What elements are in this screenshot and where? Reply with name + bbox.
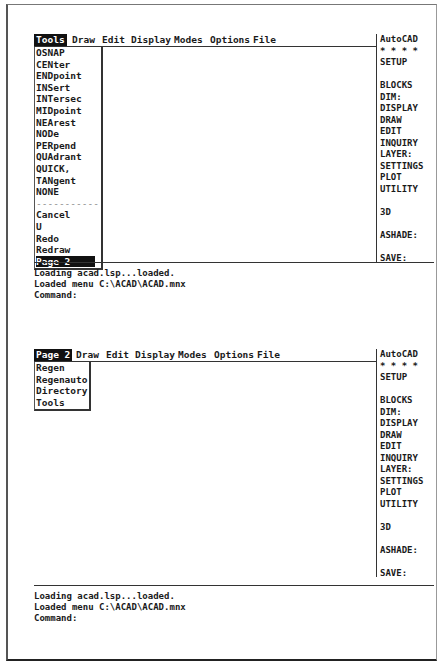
page-2-dropdown: Regen Regenauto Directory Tools — [34, 362, 91, 411]
sidebar-item-blocks[interactable]: BLOCKS — [380, 80, 432, 92]
sidebar-item-blocks[interactable]: BLOCKS — [380, 395, 432, 407]
sidebar-item-display[interactable]: DISPLAY — [380, 418, 432, 430]
command-line: Loaded menu C:\ACAD\ACAD.mnx — [34, 602, 186, 613]
command-area[interactable]: Loading acad.lsp...loaded. Loaded menu C… — [34, 268, 186, 301]
dropdown-item-redraw[interactable]: Redraw — [36, 244, 99, 256]
menu-file[interactable]: File — [253, 34, 276, 46]
dropdown-item-cancel[interactable]: Cancel — [36, 209, 99, 221]
sidebar-item-display[interactable]: DISPLAY — [380, 103, 432, 115]
menu-file[interactable]: File — [257, 349, 280, 361]
dropdown-item-directory[interactable]: Directory — [36, 385, 87, 397]
sidebar-item-inquiry[interactable]: INQUIRY — [380, 138, 432, 150]
sidebar-item-dim[interactable]: DIM: — [380, 407, 432, 419]
command-prompt[interactable]: Command: — [34, 290, 186, 301]
sidebar-spacer — [380, 384, 432, 396]
menu-edit[interactable]: Edit — [106, 349, 129, 361]
sidebar-item-settings[interactable]: SETTINGS — [380, 476, 432, 488]
sidebar-item-edit[interactable]: EDIT — [380, 126, 432, 138]
dropdown-item-center[interactable]: CENter — [36, 59, 99, 71]
command-prompt[interactable]: Command: — [34, 613, 186, 624]
dropdown-item-insert[interactable]: INSert — [36, 82, 99, 94]
dropdown-item-perpend[interactable]: PERpend — [36, 140, 99, 152]
sidebar-item-setup[interactable]: SETUP — [380, 57, 432, 69]
menu-modes[interactable]: Modes — [174, 34, 203, 46]
command-divider — [34, 585, 434, 586]
tools-dropdown: OSNAP CENter ENDpoint INSert INTersec MI… — [34, 47, 103, 270]
menu-tools[interactable]: Tools — [34, 34, 67, 46]
sidebar-item-3d[interactable]: 3D — [380, 522, 432, 534]
menu-edit[interactable]: Edit — [102, 34, 125, 46]
sidebar-item-autocad[interactable]: AutoCAD — [380, 349, 432, 361]
command-line: Loaded menu C:\ACAD\ACAD.mnx — [34, 279, 186, 290]
dropdown-item-intersec[interactable]: INTersec — [36, 93, 99, 105]
sidebar-item-layer[interactable]: LAYER: — [380, 149, 432, 161]
dropdown-item-quick[interactable]: QUICK, — [36, 163, 99, 175]
sidebar-spacer — [380, 533, 432, 545]
sidebar-item-3d[interactable]: 3D — [380, 207, 432, 219]
sidebar-item-inquiry[interactable]: INQUIRY — [380, 453, 432, 465]
sidebar-item-stars[interactable]: * * * * — [380, 46, 432, 58]
sidebar-spacer — [380, 510, 432, 522]
menu-options[interactable]: Options — [214, 349, 254, 361]
dropdown-item-nearest[interactable]: NEArest — [36, 117, 99, 129]
sidebar-item-draw[interactable]: DRAW — [380, 430, 432, 442]
dropdown-item-undo[interactable]: U — [36, 221, 99, 233]
dropdown-item-redo[interactable]: Redo — [36, 233, 99, 245]
dropdown-item-quadrant[interactable]: QUAdrant — [36, 151, 99, 163]
sidebar-spacer — [380, 241, 432, 253]
menu-display[interactable]: Display — [131, 34, 171, 46]
command-line: Loading acad.lsp...loaded. — [34, 268, 186, 279]
sidebar-item-autocad[interactable]: AutoCAD — [380, 34, 432, 46]
sidebar-spacer — [380, 195, 432, 207]
menu-bar: Tools Draw Edit Display Modes Options Fi… — [34, 34, 376, 47]
dropdown-separator: ----------- — [36, 198, 99, 210]
dropdown-item-regen[interactable]: Regen — [36, 362, 87, 374]
sidebar-spacer — [380, 69, 432, 81]
dropdown-item-node[interactable]: NODe — [36, 128, 99, 140]
sidebar-item-utility[interactable]: UTILITY — [380, 499, 432, 511]
sidebar-item-layer[interactable]: LAYER: — [380, 464, 432, 476]
menu-modes[interactable]: Modes — [178, 349, 207, 361]
sidebar-item-plot[interactable]: PLOT — [380, 172, 432, 184]
command-area[interactable]: Loading acad.lsp...loaded. Loaded menu C… — [34, 591, 186, 624]
dropdown-item-endpoint[interactable]: ENDpoint — [36, 70, 99, 82]
dropdown-item-midpoint[interactable]: MIDpoint — [36, 105, 99, 117]
menu-bar: Page 2 Draw Edit Display Modes Options F… — [34, 349, 376, 362]
sidebar-item-stars[interactable]: * * * * — [380, 361, 432, 373]
sidebar-item-utility[interactable]: UTILITY — [380, 184, 432, 196]
sidebar-item-draw[interactable]: DRAW — [380, 115, 432, 127]
menu-options[interactable]: Options — [210, 34, 250, 46]
sidebar-spacer — [380, 218, 432, 230]
sidebar-item-dim[interactable]: DIM: — [380, 92, 432, 104]
sidebar-item-edit[interactable]: EDIT — [380, 441, 432, 453]
sidebar-item-setup[interactable]: SETUP — [380, 372, 432, 384]
sidebar-item-ashade[interactable]: ASHADE: — [380, 230, 432, 242]
dropdown-item-osnap[interactable]: OSNAP — [36, 47, 99, 59]
command-line: Loading acad.lsp...loaded. — [34, 591, 186, 602]
command-divider — [34, 262, 434, 263]
menu-page-2[interactable]: Page 2 — [34, 349, 72, 361]
sidebar-item-plot[interactable]: PLOT — [380, 487, 432, 499]
menu-display[interactable]: Display — [135, 349, 175, 361]
screen-menu-sidebar: AutoCAD * * * * SETUP BLOCKS DIM: DISPLA… — [376, 349, 432, 577]
menu-draw[interactable]: Draw — [76, 349, 99, 361]
sidebar-item-settings[interactable]: SETTINGS — [380, 161, 432, 173]
dropdown-item-regenauto[interactable]: Regenauto — [36, 374, 87, 386]
sidebar-item-save[interactable]: SAVE: — [380, 568, 432, 580]
screen-menu-sidebar: AutoCAD * * * * SETUP BLOCKS DIM: DISPLA… — [376, 34, 432, 262]
sidebar-item-ashade[interactable]: ASHADE: — [380, 545, 432, 557]
menu-draw[interactable]: Draw — [72, 34, 95, 46]
dropdown-item-tools[interactable]: Tools — [36, 397, 87, 409]
dropdown-item-tangent[interactable]: TANgent — [36, 175, 99, 187]
dropdown-item-none[interactable]: NONE — [36, 186, 99, 198]
sidebar-spacer — [380, 556, 432, 568]
